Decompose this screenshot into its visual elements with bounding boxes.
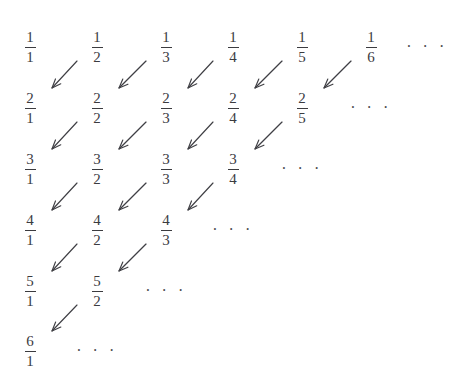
fraction-numerator: 2 (285, 91, 319, 107)
fraction-denominator: 1 (13, 353, 47, 369)
diagonal-arrow-icon (188, 122, 213, 149)
fraction-numerator: 3 (216, 152, 250, 168)
fraction-cell: 61 (13, 334, 47, 369)
fraction-cell: 16 (354, 30, 388, 65)
fraction-denominator: 1 (13, 171, 47, 187)
fraction-numerator: 1 (216, 30, 250, 46)
fraction-bar (366, 47, 377, 48)
fraction-numerator: 2 (216, 91, 250, 107)
fraction-bar (297, 108, 308, 109)
fraction-denominator: 1 (13, 110, 47, 126)
fraction-bar (228, 108, 239, 109)
fraction-bar (92, 47, 103, 48)
cantor-enumeration-figure: 111213141516· · ·2122232425· · ·31323334… (0, 0, 455, 383)
fraction-cell: 14 (216, 30, 250, 65)
diagonal-arrow-icon (52, 305, 77, 331)
diagonal-arrow-icon (119, 244, 146, 271)
fraction-numerator: 4 (80, 213, 114, 229)
row-ellipsis: · · · (75, 343, 119, 359)
row-ellipsis: · · · (280, 161, 324, 177)
fraction-numerator: 2 (80, 91, 114, 107)
fraction-denominator: 4 (216, 49, 250, 65)
diagonal-arrow-icon (255, 122, 282, 149)
fraction-denominator: 3 (149, 110, 183, 126)
fraction-numerator: 5 (13, 274, 47, 290)
fraction-denominator: 1 (13, 293, 47, 309)
fraction-bar (161, 47, 172, 48)
fraction-denominator: 6 (354, 49, 388, 65)
fraction-numerator: 4 (149, 213, 183, 229)
fraction-bar (92, 108, 103, 109)
fraction-numerator: 1 (13, 30, 47, 46)
fraction-denominator: 2 (80, 171, 114, 187)
fraction-numerator: 1 (80, 30, 114, 46)
fraction-bar (25, 47, 36, 48)
fraction-denominator: 2 (80, 293, 114, 309)
fraction-cell: 32 (80, 152, 114, 187)
fraction-bar (92, 291, 103, 292)
fraction-cell: 24 (216, 91, 250, 126)
fraction-numerator: 3 (80, 152, 114, 168)
fraction-cell: 11 (13, 30, 47, 65)
fraction-denominator: 2 (80, 49, 114, 65)
diagonal-arrow-icon (119, 183, 146, 210)
fraction-cell: 13 (149, 30, 183, 65)
fraction-bar (25, 108, 36, 109)
fraction-cell: 12 (80, 30, 114, 65)
diagonal-arrow-icon (52, 244, 77, 271)
fraction-denominator: 3 (149, 49, 183, 65)
diagonal-arrow-icon (52, 183, 77, 210)
diagonal-arrow-icon (52, 122, 77, 149)
fraction-numerator: 2 (149, 91, 183, 107)
fraction-numerator: 5 (80, 274, 114, 290)
fraction-numerator: 1 (149, 30, 183, 46)
fraction-denominator: 5 (285, 49, 319, 65)
fraction-numerator: 3 (13, 152, 47, 168)
fraction-cell: 21 (13, 91, 47, 126)
fraction-cell: 23 (149, 91, 183, 126)
fraction-denominator: 1 (13, 232, 47, 248)
fraction-denominator: 4 (216, 110, 250, 126)
row-ellipsis: · · · (211, 222, 255, 238)
fraction-cell: 31 (13, 152, 47, 187)
fraction-cell: 43 (149, 213, 183, 248)
fraction-cell: 42 (80, 213, 114, 248)
fraction-numerator: 3 (149, 152, 183, 168)
diagonal-arrow-icon (188, 61, 213, 88)
fraction-denominator: 3 (149, 232, 183, 248)
diagonal-arrow-icon (119, 122, 146, 149)
fraction-numerator: 1 (354, 30, 388, 46)
fraction-bar (25, 169, 36, 170)
fraction-denominator: 2 (80, 110, 114, 126)
fraction-bar (228, 169, 239, 170)
fraction-bar (228, 47, 239, 48)
fraction-cell: 34 (216, 152, 250, 187)
fraction-bar (297, 47, 308, 48)
fraction-denominator: 5 (285, 110, 319, 126)
fraction-cell: 33 (149, 152, 183, 187)
fraction-numerator: 1 (285, 30, 319, 46)
fraction-cell: 22 (80, 91, 114, 126)
diagonal-arrow-icon (324, 61, 351, 88)
fraction-numerator: 6 (13, 334, 47, 350)
fraction-denominator: 1 (13, 49, 47, 65)
diagonal-arrow-icon (52, 61, 77, 88)
row-ellipsis: · · · (349, 100, 393, 116)
fraction-denominator: 3 (149, 171, 183, 187)
row-ellipsis: · · · (144, 283, 188, 299)
fraction-bar (92, 230, 103, 231)
diagonal-arrow-icon (188, 183, 213, 210)
fraction-cell: 25 (285, 91, 319, 126)
fraction-cell: 52 (80, 274, 114, 309)
fraction-denominator: 4 (216, 171, 250, 187)
fraction-numerator: 2 (13, 91, 47, 107)
fraction-bar (92, 169, 103, 170)
fraction-cell: 51 (13, 274, 47, 309)
fraction-denominator: 2 (80, 232, 114, 248)
fraction-bar (161, 230, 172, 231)
row-ellipsis: · · · (405, 39, 449, 55)
diagonal-arrow-icon (255, 61, 282, 88)
fraction-bar (161, 108, 172, 109)
fraction-numerator: 4 (13, 213, 47, 229)
fraction-cell: 15 (285, 30, 319, 65)
